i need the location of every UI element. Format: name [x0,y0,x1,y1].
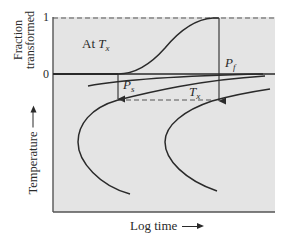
tx-subscript: x [196,91,200,101]
pf-label: Pf [225,56,235,69]
ps-subscript: s [131,84,135,94]
at-text: At [82,36,95,51]
fraction-transformed-axis-label: Fraction transformed [4,10,44,70]
ps-p-symbol: P [123,77,131,92]
log-time-label: Log time [130,218,177,234]
tx-label: Tx [189,85,200,98]
tick-zero: 0 [43,68,49,80]
tick-one: 1 [43,11,49,23]
pf-p-symbol: P [225,55,233,70]
at-tx-label: At Tx [82,37,109,50]
temperature-axis-label: Temperature [22,95,44,205]
fraction-label-line2: transformed [24,11,36,69]
log-time-axis-label: Log time [130,218,204,234]
temperature-label: Temperature [26,132,41,195]
at-t-subscript: x [105,43,109,53]
up-arrow-icon [29,106,37,128]
right-arrow-icon [182,222,204,230]
ttt-diagram-figure: Fraction transformed 1 0 Temperature At … [0,0,290,240]
ps-label: Ps [123,78,134,91]
